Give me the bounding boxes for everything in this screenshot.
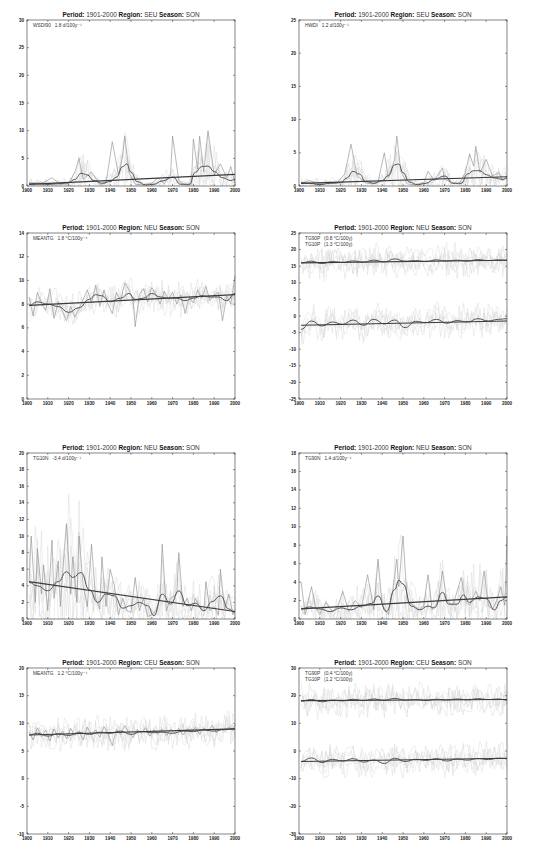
svg-text:8: 8 bbox=[293, 543, 296, 548]
svg-text:2000: 2000 bbox=[230, 188, 241, 193]
svg-text:20: 20 bbox=[19, 666, 25, 671]
chart-plot: 1900191019201930194019501960197019801990… bbox=[272, 0, 544, 210]
chart-panel-neu-tg90p-tg10p: Period: 1901-2000 Region: NEU Season: SO… bbox=[272, 213, 544, 423]
svg-text:1980: 1980 bbox=[460, 836, 471, 841]
svg-text:14: 14 bbox=[19, 500, 25, 505]
svg-text:1980: 1980 bbox=[188, 621, 199, 626]
svg-text:1930: 1930 bbox=[84, 621, 95, 626]
svg-text:1940: 1940 bbox=[377, 188, 388, 193]
svg-text:0: 0 bbox=[293, 184, 296, 189]
svg-text:0: 0 bbox=[21, 397, 24, 402]
chart-panel-neu-tg10n: Period: 1901-2000 Region: NEU Season: SO… bbox=[0, 433, 272, 643]
svg-text:15: 15 bbox=[291, 264, 297, 269]
svg-text:10: 10 bbox=[291, 524, 297, 529]
svg-text:1920: 1920 bbox=[63, 188, 74, 193]
svg-text:20: 20 bbox=[291, 51, 297, 56]
svg-text:1920: 1920 bbox=[63, 836, 74, 841]
index-trend-label: MEANTG 1.8 °C/100y⁻¹ bbox=[33, 236, 87, 242]
svg-text:1940: 1940 bbox=[105, 621, 116, 626]
svg-text:-10: -10 bbox=[289, 776, 296, 781]
svg-text:2000: 2000 bbox=[230, 401, 241, 406]
index-trend-label: TG10N -3.4 d/100y⁻¹ bbox=[33, 456, 81, 462]
svg-text:10: 10 bbox=[291, 117, 297, 122]
svg-text:2000: 2000 bbox=[502, 621, 513, 626]
svg-text:-15: -15 bbox=[289, 363, 296, 368]
svg-text:5: 5 bbox=[21, 156, 24, 161]
chart-plot: 1900191019201930194019501960197019801990… bbox=[0, 213, 272, 423]
svg-text:6: 6 bbox=[21, 567, 24, 572]
svg-text:1910: 1910 bbox=[43, 621, 54, 626]
svg-text:12: 12 bbox=[19, 254, 25, 259]
svg-text:1920: 1920 bbox=[63, 621, 74, 626]
chart-plot: 1900191019201930194019501960197019801990… bbox=[272, 433, 544, 643]
svg-text:1930: 1930 bbox=[356, 836, 367, 841]
svg-text:1990: 1990 bbox=[481, 401, 492, 406]
svg-text:1910: 1910 bbox=[315, 401, 326, 406]
svg-text:1930: 1930 bbox=[356, 621, 367, 626]
svg-text:1970: 1970 bbox=[167, 401, 178, 406]
svg-text:14: 14 bbox=[291, 487, 297, 492]
index-trend-label: TG90N 1.4 d/100y⁻¹ bbox=[305, 456, 351, 462]
svg-text:8: 8 bbox=[21, 550, 24, 555]
svg-text:1940: 1940 bbox=[377, 621, 388, 626]
svg-text:1980: 1980 bbox=[460, 621, 471, 626]
svg-text:6: 6 bbox=[21, 325, 24, 330]
svg-text:25: 25 bbox=[291, 231, 297, 236]
svg-text:30: 30 bbox=[19, 18, 25, 23]
svg-text:1920: 1920 bbox=[63, 401, 74, 406]
svg-text:15: 15 bbox=[19, 693, 25, 698]
svg-text:2000: 2000 bbox=[502, 836, 513, 841]
svg-text:1900: 1900 bbox=[294, 401, 305, 406]
svg-text:12: 12 bbox=[291, 506, 297, 511]
svg-text:1940: 1940 bbox=[377, 836, 388, 841]
svg-text:-5: -5 bbox=[20, 804, 25, 809]
svg-text:0: 0 bbox=[293, 617, 296, 622]
svg-text:1920: 1920 bbox=[335, 621, 346, 626]
index-trend-label: MEANTG 1.2 °C/100y⁻¹ bbox=[33, 671, 87, 677]
svg-text:18: 18 bbox=[291, 451, 297, 456]
svg-text:10: 10 bbox=[19, 128, 25, 133]
svg-text:1950: 1950 bbox=[126, 621, 137, 626]
svg-text:1940: 1940 bbox=[105, 836, 116, 841]
svg-text:1970: 1970 bbox=[439, 401, 450, 406]
svg-text:1990: 1990 bbox=[209, 188, 220, 193]
svg-text:1980: 1980 bbox=[460, 401, 471, 406]
svg-text:4: 4 bbox=[293, 580, 296, 585]
svg-text:2: 2 bbox=[21, 373, 24, 378]
svg-text:4: 4 bbox=[21, 583, 24, 588]
chart-panel-neu-meantg: Period: 1901-2000 Region: NEU Season: SO… bbox=[0, 213, 272, 423]
svg-text:1980: 1980 bbox=[460, 188, 471, 193]
svg-text:15: 15 bbox=[19, 101, 25, 106]
svg-text:-5: -5 bbox=[292, 330, 297, 335]
svg-text:1950: 1950 bbox=[398, 188, 409, 193]
svg-text:1900: 1900 bbox=[294, 621, 305, 626]
svg-text:1970: 1970 bbox=[167, 836, 178, 841]
svg-text:1940: 1940 bbox=[377, 401, 388, 406]
svg-text:1910: 1910 bbox=[315, 188, 326, 193]
svg-text:1970: 1970 bbox=[439, 836, 450, 841]
svg-text:15: 15 bbox=[291, 84, 297, 89]
svg-text:1980: 1980 bbox=[188, 836, 199, 841]
svg-text:5: 5 bbox=[21, 749, 24, 754]
svg-text:1930: 1930 bbox=[356, 401, 367, 406]
svg-text:1950: 1950 bbox=[398, 401, 409, 406]
svg-text:1960: 1960 bbox=[419, 836, 430, 841]
index-trend-label: HWDI 1.2 d/100y⁻¹ bbox=[305, 23, 349, 29]
svg-text:5: 5 bbox=[293, 297, 296, 302]
index-trend-label: WSDI90 1.8 d/100y⁻¹ bbox=[33, 23, 82, 29]
svg-text:1900: 1900 bbox=[294, 188, 305, 193]
svg-text:20: 20 bbox=[19, 451, 25, 456]
svg-text:1930: 1930 bbox=[84, 836, 95, 841]
svg-text:14: 14 bbox=[19, 231, 25, 236]
chart-panel-neu-tg90n: Period: 1901-2000 Region: NEU Season: SO… bbox=[272, 433, 544, 643]
svg-text:1920: 1920 bbox=[335, 401, 346, 406]
svg-text:-10: -10 bbox=[17, 832, 24, 837]
svg-text:0: 0 bbox=[21, 184, 24, 189]
svg-text:1960: 1960 bbox=[419, 188, 430, 193]
svg-text:16: 16 bbox=[19, 484, 25, 489]
svg-text:1960: 1960 bbox=[147, 401, 158, 406]
svg-text:1910: 1910 bbox=[43, 188, 54, 193]
svg-text:0: 0 bbox=[21, 617, 24, 622]
svg-text:2000: 2000 bbox=[502, 401, 513, 406]
svg-text:8: 8 bbox=[21, 302, 24, 307]
